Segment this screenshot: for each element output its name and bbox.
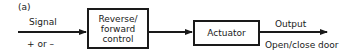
block-line: Actuator [207, 28, 245, 38]
actuator-block: Actuator [193, 20, 260, 46]
block-line: control [98, 34, 137, 44]
input-label: Signal [29, 17, 57, 27]
reverse-forward-control-block: Reverse/ forward control [87, 8, 149, 49]
figure-label: (a) [18, 2, 31, 12]
input-sublabel: + or – [27, 39, 54, 49]
output-label: Output [275, 19, 306, 29]
block-line: Reverse/ [98, 14, 137, 24]
output-sublabel: Open/close door [265, 40, 339, 50]
block-line: forward [98, 24, 137, 34]
